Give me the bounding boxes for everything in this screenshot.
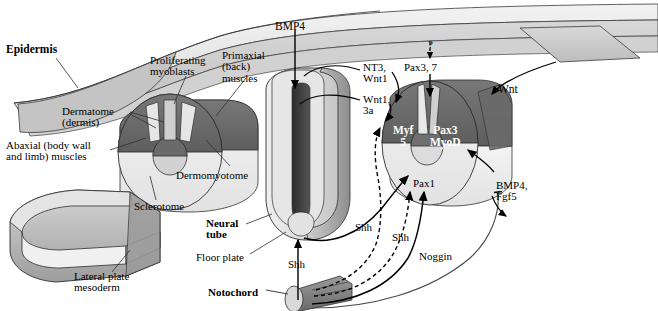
anatomy-label-primaxial: Primaxial (back) muscles (222, 50, 265, 84)
anatomy-label-abaxial: Abaxial (body wall and limb) muscles (6, 140, 91, 163)
anatomy-label-neural-tube: Neural tube (206, 218, 238, 241)
signal-label-wnt-right: Wnt (498, 84, 518, 96)
signal-label-bmp4-top: BMP4 (275, 21, 305, 33)
signal-label-noggin: Noggin (419, 251, 452, 262)
signal-label-shh-nt: Shh (355, 222, 372, 233)
signal-label-shh-mid: Shh (392, 232, 409, 243)
signal-label-pax3-7: Pax3, 7 (404, 62, 437, 73)
neural-tube (266, 68, 350, 240)
signal-label-pax1: Pax1 (413, 178, 435, 189)
anatomy-label-dermomyotome: Dermomyotome (176, 170, 248, 181)
notochord (285, 276, 352, 311)
anatomy-label-dermatome: Dermatome (dermis) (62, 106, 114, 129)
anatomy-label-sclerotome: Sclerotome (134, 201, 184, 212)
anatomy-label-epidermis: Epidermis (6, 44, 57, 56)
signal-label-question: ? (428, 39, 433, 50)
signal-label-nt3-wnt1: NT3, Wnt1 (363, 62, 387, 85)
signal-label-shh-noto: Shh (288, 259, 305, 270)
anatomy-label-floor-plate: Floor plate (196, 252, 244, 263)
diagram-artwork (0, 0, 658, 311)
gene-label-pax3-myod: Pax3 MyoD (430, 125, 461, 148)
anatomy-label-notochord: Notochord (208, 287, 258, 298)
signal-label-bmp4-fgf5: BMP4, Fgf5 (496, 180, 528, 203)
gene-label-myf5: Myf 5 (393, 125, 413, 148)
figure-canvas: EpidermisProliferating myoblastsPrimaxia… (0, 0, 658, 311)
signal-label-wnt1-3a: Wnt1, 3a (363, 94, 390, 117)
somite-left-cross-section (118, 94, 258, 212)
anatomy-label-proliferating: Proliferating myoblasts (150, 55, 206, 78)
anatomy-label-lateral-plate: Lateral plate mesoderm (74, 271, 129, 294)
